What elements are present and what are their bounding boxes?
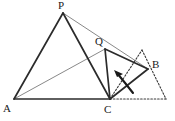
vertex-label-c: C	[104, 104, 111, 115]
segment-a-p	[14, 13, 63, 99]
vertex-label-q: Q	[95, 36, 103, 47]
vertex-label-b: B	[152, 59, 159, 70]
vertex-label-a: A	[3, 103, 11, 114]
geometry-figure	[0, 0, 175, 121]
segment-p-c	[63, 13, 110, 99]
vertex-label-p: P	[58, 0, 64, 11]
diagram-canvas: P Q A B C	[0, 0, 175, 121]
segment-c-dapex-dotted	[110, 50, 142, 99]
rotation-arrow	[114, 70, 133, 93]
rotation-arrow-head	[114, 70, 123, 77]
segment-q-b	[105, 49, 148, 69]
